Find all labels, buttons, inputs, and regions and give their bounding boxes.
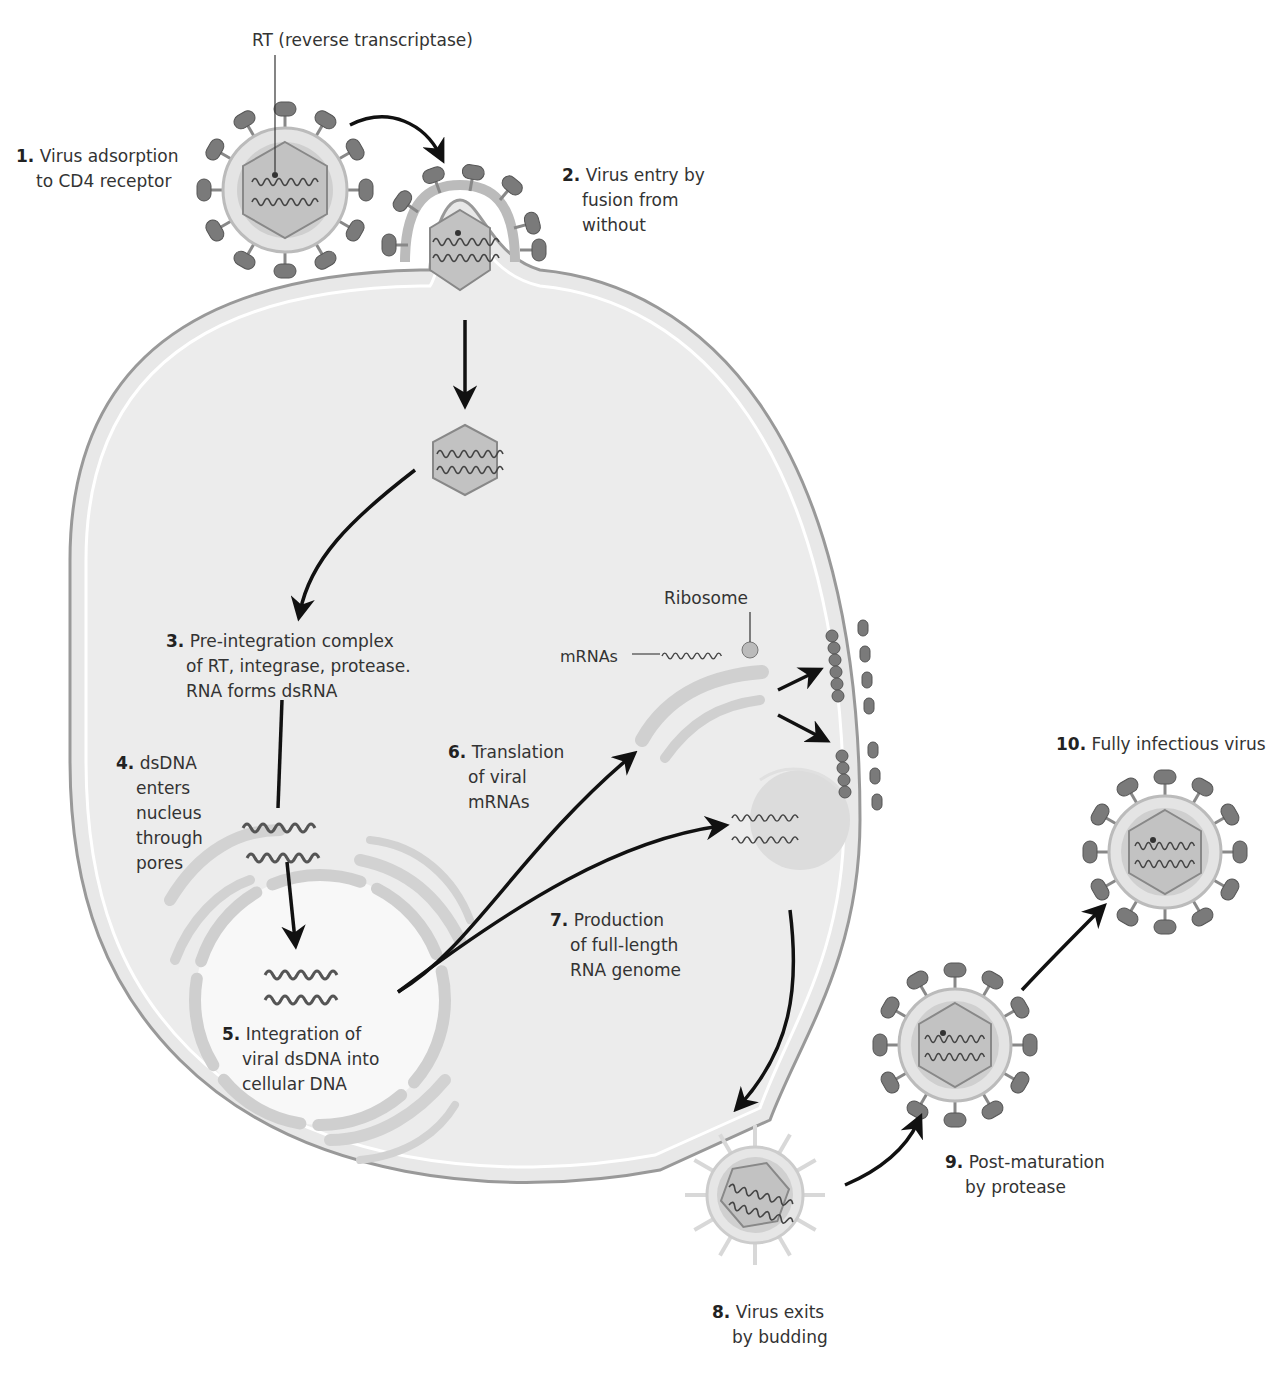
- step-6-label: 6. Translation of viral mRNAs: [448, 740, 564, 815]
- step-7-label: 7. Production of full-length RNA genome: [550, 908, 681, 983]
- rt-callout: RT (reverse transcriptase): [252, 28, 473, 53]
- step-2-label: 2. Virus entry by fusion from without: [562, 163, 705, 238]
- step-3-label: 3. Pre-integration complex of RT, integr…: [166, 629, 411, 704]
- mrnas-callout: mRNAs: [560, 644, 618, 669]
- arrow-8-to-9: [845, 1122, 918, 1185]
- step-8-label: 8. Virus exits by budding: [712, 1300, 828, 1350]
- virus-fully-infectious: [1083, 770, 1247, 934]
- virus-adsorption: [197, 102, 373, 278]
- step-4-label: 4. dsDNA enters nucleus through pores: [116, 751, 203, 876]
- step-1-label: 1. Virus adsorption to CD4 receptor: [16, 144, 179, 194]
- ribosome-callout: Ribosome: [664, 586, 748, 611]
- step-5-label: 5. Integration of viral dsDNA into cellu…: [222, 1022, 379, 1097]
- virus-post-maturation: [873, 963, 1037, 1127]
- step-9-label: 9. Post-maturation by protease: [945, 1150, 1105, 1200]
- arrow-9-to-10: [1022, 910, 1100, 990]
- step-10-label: 10. Fully infectious virus: [1056, 732, 1266, 757]
